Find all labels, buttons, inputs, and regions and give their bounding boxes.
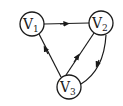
node-v1: V 1 <box>20 12 44 36</box>
svg-text:2: 2 <box>102 23 108 33</box>
node-v3: V 3 <box>57 75 81 99</box>
edge-v2-v3 <box>81 35 106 84</box>
svg-text:1: 1 <box>33 24 39 34</box>
edge-v1-v2 <box>44 23 89 24</box>
node-v2: V 2 <box>89 11 113 35</box>
edge-v3-v2 <box>66 33 94 75</box>
directed-graph: V 1 V 2 V 3 <box>0 0 123 106</box>
edge-v3-v1 <box>39 34 61 77</box>
svg-text:3: 3 <box>70 87 76 97</box>
